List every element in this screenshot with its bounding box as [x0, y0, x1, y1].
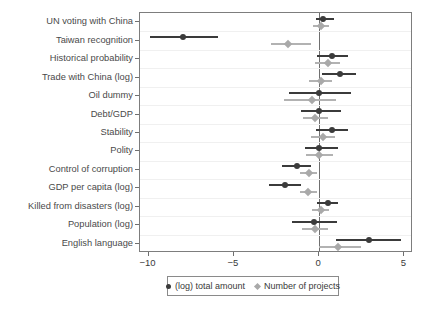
- coefficient-plot-figure: UN voting with ChinaTaiwan recognitionHi…: [0, 0, 421, 309]
- y-axis-category-labels: UN voting with ChinaTaiwan recognitionHi…: [0, 0, 133, 309]
- diamond-data-point: [319, 132, 327, 140]
- diamond-data-point: [308, 95, 316, 103]
- gridline: [140, 87, 411, 88]
- diamond-data-point: [284, 40, 292, 48]
- y-axis-tick: [135, 187, 139, 188]
- circle-data-point: [329, 53, 335, 59]
- y-axis-tick: [135, 169, 139, 170]
- y-axis-tick: [135, 150, 139, 151]
- y-axis-tick: [135, 206, 139, 207]
- gridline: [140, 50, 411, 51]
- circle-data-point: [329, 127, 335, 133]
- y-axis-label-trade-with-china-log: Trade with China (log): [42, 72, 133, 82]
- y-axis-label-killed-from-disasters-log: Killed from disasters (log): [28, 201, 133, 211]
- circle-data-point: [180, 34, 186, 40]
- x-axis-tick-label: 0: [316, 257, 321, 268]
- diamond-data-point: [317, 21, 325, 29]
- circle-data-point: [316, 108, 322, 114]
- circle-data-point: [294, 163, 300, 169]
- legend-label-number-of-projects: Number of projects: [264, 281, 340, 291]
- diamond-data-point: [305, 169, 313, 177]
- gridline: [140, 124, 411, 125]
- x-axis-tick-label: −10: [139, 257, 155, 268]
- plot-area: [139, 12, 412, 252]
- diamond-data-point: [311, 225, 319, 233]
- y-axis-label-polity: Polity: [110, 145, 133, 155]
- y-axis-tick: [135, 243, 139, 244]
- legend-label-total-amount: (log) total amount: [175, 281, 245, 291]
- y-axis-label-english-language: English language: [62, 238, 133, 248]
- y-axis-tick: [135, 77, 139, 78]
- x-axis-tick: [233, 252, 234, 256]
- y-axis-tick: [135, 21, 139, 22]
- diamond-data-point: [334, 243, 342, 251]
- gridline: [140, 68, 411, 69]
- gridline: [140, 142, 411, 143]
- y-axis-label-historical-probability: Historical probability: [50, 53, 133, 63]
- gridline: [140, 198, 411, 199]
- diamond-marker-icon: [254, 282, 261, 289]
- gridline: [140, 105, 411, 106]
- diamond-data-point: [317, 77, 325, 85]
- x-axis-tick: [318, 252, 319, 256]
- gridline: [140, 216, 411, 217]
- circle-data-point: [282, 182, 288, 188]
- y-axis-tick: [135, 95, 139, 96]
- circle-data-point: [366, 237, 372, 243]
- y-axis-label-gdp-per-capita-log: GDP per capita (log): [48, 182, 133, 192]
- y-axis-label-stability: Stability: [100, 127, 133, 137]
- circle-data-point: [316, 90, 322, 96]
- y-axis-tick: [135, 114, 139, 115]
- y-axis-tick: [135, 132, 139, 133]
- circle-marker-icon: [166, 284, 171, 289]
- x-axis-tick-label: 5: [401, 257, 406, 268]
- y-axis-label-taiwan-recognition: Taiwan recognition: [56, 35, 133, 45]
- gridline: [140, 161, 411, 162]
- y-axis-tick: [135, 224, 139, 225]
- gridline: [140, 235, 411, 236]
- legend-item-number-of-projects: Number of projects: [255, 281, 340, 291]
- x-axis-tick: [403, 252, 404, 256]
- y-axis-label-control-of-corruption: Control of corruption: [49, 164, 133, 174]
- y-axis-tick: [135, 40, 139, 41]
- diamond-data-point: [317, 206, 325, 214]
- diamond-data-point: [315, 151, 323, 159]
- diamond-data-point: [304, 188, 312, 196]
- gridline: [140, 179, 411, 180]
- circle-data-point: [325, 200, 331, 206]
- diamond-data-point: [311, 114, 319, 122]
- x-axis-tick-label: −5: [227, 257, 238, 268]
- circle-data-point: [337, 71, 343, 77]
- gridline: [140, 31, 411, 32]
- legend-item-total-amount: (log) total amount: [166, 281, 245, 291]
- x-axis-tick: [148, 252, 149, 256]
- circle-data-point: [320, 16, 326, 22]
- diamond-data-point: [323, 58, 331, 66]
- chart-legend: (log) total amount Number of projects: [167, 276, 339, 296]
- y-axis-label-un-voting-with-china: UN voting with China: [46, 16, 133, 26]
- y-axis-label-population-log: Population (log): [68, 219, 133, 229]
- y-axis-tick: [135, 58, 139, 59]
- y-axis-label-oil-dummy: Oil dummy: [89, 90, 133, 100]
- y-axis-label-debt-gdp: Debt/GDP: [91, 109, 133, 119]
